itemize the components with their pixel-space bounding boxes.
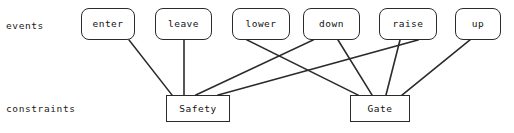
row-label-constraints: constraints <box>6 103 76 114</box>
constraint-node-label: Gate <box>368 104 393 114</box>
event-node-label: enter <box>92 19 123 29</box>
edge-lower-to-gate <box>247 40 358 95</box>
constraint-node-gate[interactable]: Gate <box>350 95 410 122</box>
edge-down-to-safety <box>196 40 313 95</box>
edge-enter-to-safety <box>129 40 172 95</box>
edge-up-to-gate <box>402 40 470 95</box>
row-label-events: events <box>6 20 44 31</box>
event-node-label: lower <box>245 19 276 29</box>
event-node-label: leave <box>168 19 199 29</box>
event-node-down[interactable]: down <box>303 8 360 40</box>
event-node-label: down <box>319 19 344 29</box>
event-node-lower[interactable]: lower <box>232 8 290 40</box>
constraint-node-safety[interactable]: Safety <box>166 95 230 122</box>
event-node-enter[interactable]: enter <box>81 8 135 40</box>
event-node-label: up <box>472 19 484 29</box>
constraint-node-label: Safety <box>179 104 216 114</box>
event-node-up[interactable]: up <box>455 8 501 40</box>
event-node-leave[interactable]: leave <box>155 8 212 40</box>
event-node-label: raise <box>392 19 423 29</box>
diagram-canvas: events constraints enterleavelowerdownra… <box>0 0 514 133</box>
event-node-raise[interactable]: raise <box>379 8 437 40</box>
